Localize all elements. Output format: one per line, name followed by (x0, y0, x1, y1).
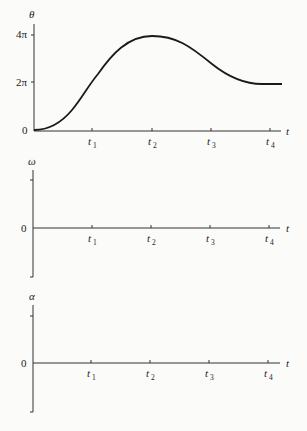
svg-text:3: 3 (210, 373, 214, 382)
omega-panel: ω 0 t t 1 t 2 t 3 t 4 (21, 155, 290, 277)
tick-label-t2: t (148, 135, 152, 147)
svg-text:3: 3 (211, 238, 215, 247)
svg-text:t: t (87, 367, 91, 379)
tick-label-t4: t (266, 135, 270, 147)
svg-text:2: 2 (153, 141, 157, 150)
svg-text:t: t (206, 232, 210, 244)
svg-text:t: t (265, 232, 269, 244)
svg-text:t: t (147, 232, 151, 244)
theta-panel: θ 4π 2π 0 t t 1 t 2 t 3 t 4 (16, 8, 290, 150)
tick-label-t3: t (207, 135, 211, 147)
alpha-tick-label-0: 0 (21, 357, 27, 369)
motion-graphs: θ 4π 2π 0 t t 1 t 2 t 3 t 4 ω 0 (0, 0, 307, 431)
alpha-panel: α 0 t t 1 t 2 t 3 t 4 (21, 290, 290, 412)
theta-tick-label-2pi: 2π (16, 76, 28, 88)
alpha-x-label: t (286, 357, 290, 369)
theta-axis-label: θ (29, 8, 35, 20)
omega-tick-label-0: 0 (21, 222, 27, 234)
svg-text:2: 2 (152, 238, 156, 247)
svg-text:t: t (264, 367, 268, 379)
theta-tick-label-4pi: 4π (16, 28, 28, 40)
svg-text:t: t (205, 367, 209, 379)
tick-label-t1: t (88, 135, 92, 147)
theta-curve (34, 36, 282, 130)
omega-axis-label: ω (28, 155, 36, 167)
svg-text:1: 1 (93, 141, 97, 150)
svg-text:3: 3 (212, 141, 216, 150)
svg-text:1: 1 (92, 373, 96, 382)
svg-text:2: 2 (151, 373, 155, 382)
svg-text:t: t (146, 367, 150, 379)
svg-text:t: t (88, 232, 92, 244)
svg-text:1: 1 (93, 238, 97, 247)
omega-x-label: t (286, 222, 290, 234)
svg-text:4: 4 (271, 141, 275, 150)
alpha-axis-label: α (29, 290, 35, 302)
theta-tick-label-0: 0 (22, 124, 28, 136)
svg-text:4: 4 (270, 238, 274, 247)
theta-x-label: t (286, 125, 290, 137)
svg-text:4: 4 (269, 373, 273, 382)
